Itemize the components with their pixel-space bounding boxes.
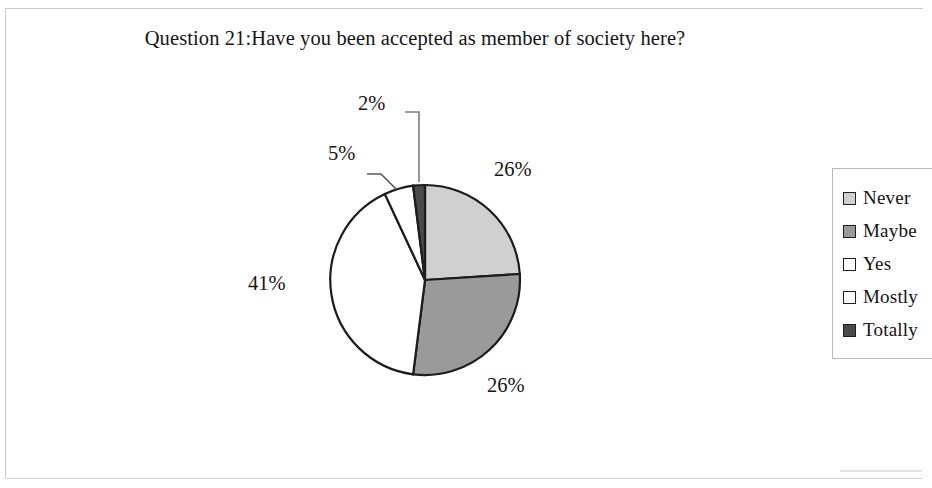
legend-item-never[interactable]: Never <box>843 181 932 214</box>
legend-label-yes: Yes <box>863 253 891 275</box>
data-label-maybe: 26% <box>487 374 525 397</box>
legend-swatch-totally <box>843 324 856 337</box>
pie-chart-graphic <box>250 90 600 390</box>
leader-line-totally <box>405 112 419 182</box>
legend-swatch-mostly <box>843 291 856 304</box>
page-scan-artifact <box>840 470 922 472</box>
legend-item-totally[interactable]: Totally <box>843 313 932 346</box>
legend-label-mostly: Mostly <box>863 286 918 308</box>
legend-label-never: Never <box>863 187 910 209</box>
legend-swatch-yes <box>843 258 856 271</box>
chart-legend: Never Maybe Yes Mostly Totally <box>832 168 932 359</box>
data-label-mostly: 41% <box>248 272 286 295</box>
page-bottom-rule <box>6 478 922 479</box>
legend-label-totally: Totally <box>863 319 918 341</box>
legend-item-mostly[interactable]: Mostly <box>843 280 932 313</box>
legend-swatch-maybe <box>843 225 856 238</box>
leader-line-yes <box>367 174 396 189</box>
data-label-yes: 5% <box>328 142 355 165</box>
pie-slice-maybe[interactable] <box>413 274 520 375</box>
legend-label-maybe: Maybe <box>863 220 917 242</box>
pie-slice-never[interactable] <box>425 185 520 280</box>
pie-chart-plot-area: 26% 26% 41% 5% 2% <box>0 0 830 460</box>
legend-swatch-never <box>843 192 856 205</box>
legend-item-maybe[interactable]: Maybe <box>843 214 932 247</box>
data-label-totally: 2% <box>358 92 385 115</box>
legend-item-yes[interactable]: Yes <box>843 247 932 280</box>
data-label-never: 26% <box>494 158 532 181</box>
